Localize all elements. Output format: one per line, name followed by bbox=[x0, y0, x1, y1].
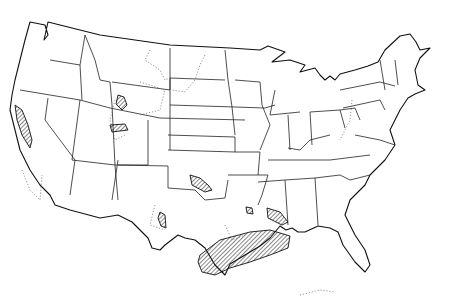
dotted-outlines bbox=[22, 50, 352, 295]
us-outline bbox=[10, 22, 430, 275]
hatched-north-louisiana bbox=[246, 207, 253, 214]
hatched-west-texas bbox=[158, 212, 166, 228]
us-map bbox=[0, 0, 451, 299]
us-map-svg bbox=[0, 0, 451, 299]
hatched-wyoming bbox=[116, 95, 127, 110]
state-boundaries bbox=[20, 35, 398, 225]
hatched-utah bbox=[110, 124, 128, 132]
hatched-gulf-coast bbox=[198, 230, 290, 275]
hatched-oklahoma bbox=[190, 175, 212, 192]
hatched-mississippi bbox=[267, 208, 288, 225]
